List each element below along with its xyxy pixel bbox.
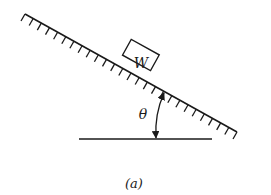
hatch-mark — [168, 96, 172, 103]
hatch-mark — [135, 78, 139, 85]
hatch-mark — [176, 100, 180, 107]
hatch-mark — [119, 69, 123, 76]
hatch-mark — [78, 46, 82, 53]
hatch-mark — [70, 41, 74, 48]
hatch-mark — [21, 14, 25, 21]
hatch-mark — [111, 64, 115, 71]
hatch-mark — [192, 109, 196, 116]
angle-label: θ — [139, 106, 148, 122]
hatch-mark — [217, 123, 221, 130]
figure-caption: (a) — [125, 176, 143, 191]
inclined-plane-diagram: W θ (a) — [0, 0, 271, 195]
block-label: W — [134, 55, 150, 71]
hatch-mark — [200, 114, 204, 121]
angle-arc — [156, 93, 164, 138]
hatch-mark — [233, 132, 237, 139]
incline-hatching — [21, 14, 237, 139]
hatch-mark — [209, 118, 213, 125]
hatch-mark — [62, 37, 66, 44]
hatch-mark — [86, 50, 90, 57]
hatch-mark — [225, 128, 229, 135]
hatch-mark — [37, 23, 41, 30]
hatch-mark — [103, 59, 107, 66]
hatch-mark — [94, 55, 98, 62]
hatch-mark — [184, 105, 188, 112]
hatch-mark — [29, 19, 33, 26]
hatch-mark — [127, 73, 131, 80]
hatch-mark — [54, 32, 58, 39]
hatch-mark — [46, 28, 50, 35]
hatch-mark — [152, 87, 156, 94]
hatch-mark — [143, 82, 147, 89]
